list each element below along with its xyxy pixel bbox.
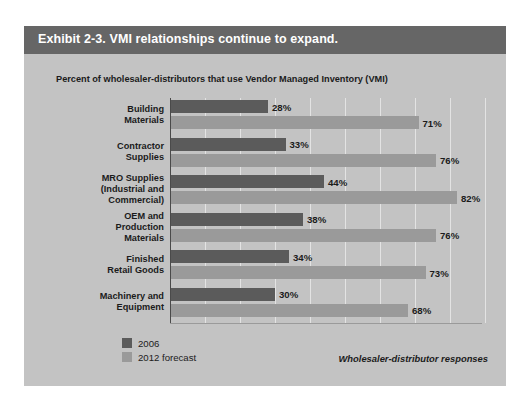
category-label-line: Commercial) bbox=[52, 195, 164, 206]
bar-series-2012 bbox=[170, 116, 419, 129]
bar-series-2006 bbox=[170, 213, 303, 226]
category-label-line: Equipment bbox=[52, 302, 164, 313]
category-label: ContractorSupplies bbox=[52, 141, 164, 163]
chart-legend: 20062012 forecast bbox=[122, 336, 196, 364]
legend-label: 2006 bbox=[138, 338, 159, 349]
category-label: FinishedRetail Goods bbox=[52, 254, 164, 276]
bar-value-label: 38% bbox=[307, 214, 326, 225]
category-label: Machinery andEquipment bbox=[52, 291, 164, 313]
bar-series-2006 bbox=[170, 175, 324, 188]
bar-group: 38%76% bbox=[170, 213, 482, 242]
bar-series-2012 bbox=[170, 154, 436, 167]
category-label-line: Building bbox=[52, 104, 164, 115]
bar-series-2012 bbox=[170, 191, 457, 204]
bar-group: 30%68% bbox=[170, 288, 482, 317]
category-axis-labels: BuildingMaterialsContractorSuppliesMRO S… bbox=[50, 98, 164, 323]
bar-series-2006 bbox=[170, 138, 286, 151]
chart-subtitle: Percent of wholesaler-distributors that … bbox=[56, 74, 388, 84]
bar-group: 33%76% bbox=[170, 138, 482, 167]
bar-series-2006 bbox=[170, 100, 268, 113]
category-label: BuildingMaterials bbox=[52, 104, 164, 126]
exhibit-panel: Exhibit 2-3. VMI relationships continue … bbox=[24, 26, 506, 386]
bar-value-label: 68% bbox=[412, 305, 431, 316]
bar-group: 44%82% bbox=[170, 175, 482, 204]
bar-value-label: 34% bbox=[293, 251, 312, 262]
exhibit-title: Exhibit 2-3. VMI relationships continue … bbox=[38, 32, 338, 46]
category-label-line: Machinery and bbox=[52, 291, 164, 302]
legend-label: 2012 forecast bbox=[138, 352, 196, 363]
legend-swatch bbox=[122, 338, 132, 348]
bar-value-label: 44% bbox=[328, 176, 347, 187]
bar-value-label: 30% bbox=[279, 289, 298, 300]
exhibit-title-bar: Exhibit 2-3. VMI relationships continue … bbox=[24, 26, 506, 54]
bar-value-label: 82% bbox=[461, 192, 480, 203]
gridline bbox=[485, 98, 486, 323]
chart-baseline bbox=[170, 323, 482, 324]
category-label-line: Materials bbox=[52, 115, 164, 126]
category-label-line: MRO Supplies bbox=[52, 173, 164, 184]
bar-series-2006 bbox=[170, 250, 289, 263]
category-label-line: Contractor bbox=[52, 141, 164, 152]
bar-value-label: 28% bbox=[272, 101, 291, 112]
bar-series-2012 bbox=[170, 266, 426, 279]
category-label-line: Production bbox=[52, 222, 164, 233]
category-label-line: Supplies bbox=[52, 152, 164, 163]
bar-value-label: 33% bbox=[290, 139, 309, 150]
bar-value-label: 76% bbox=[440, 155, 459, 166]
bar-value-label: 76% bbox=[440, 230, 459, 241]
category-label-line: (Industrial and bbox=[52, 184, 164, 195]
bar-group: 34%73% bbox=[170, 250, 482, 279]
legend-item: 2006 bbox=[122, 336, 196, 350]
bar-series-2006 bbox=[170, 288, 275, 301]
legend-swatch bbox=[122, 352, 132, 362]
bar-series-2012 bbox=[170, 229, 436, 242]
chart-plot-area: 28%71%33%76%44%82%38%76%34%73%30%68% bbox=[170, 98, 482, 323]
category-label-line: OEM and bbox=[52, 211, 164, 222]
bar-series-2012 bbox=[170, 304, 408, 317]
bar-value-label: 73% bbox=[430, 267, 449, 278]
bar-value-label: 71% bbox=[423, 117, 442, 128]
legend-item: 2012 forecast bbox=[122, 350, 196, 364]
source-note: Wholesaler-distributor responses bbox=[338, 353, 488, 364]
category-label: MRO Supplies(Industrial andCommercial) bbox=[52, 173, 164, 206]
category-label-line: Materials bbox=[52, 233, 164, 244]
value-axis-line bbox=[170, 98, 171, 323]
category-label-line: Finished bbox=[52, 254, 164, 265]
bar-group: 28%71% bbox=[170, 100, 482, 129]
category-label: OEM andProductionMaterials bbox=[52, 211, 164, 244]
category-label-line: Retail Goods bbox=[52, 265, 164, 276]
